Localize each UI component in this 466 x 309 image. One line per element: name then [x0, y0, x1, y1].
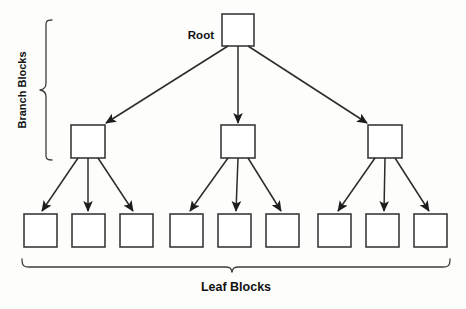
edge-root-to-branch-3: [248, 46, 367, 123]
diagram-canvas: Root: [0, 0, 466, 309]
leaf-node-4[interactable]: [170, 214, 203, 247]
root-level-group: Root: [188, 14, 254, 46]
branch-node-1[interactable]: [71, 125, 105, 158]
edge-branch3-to-leaf7: [338, 158, 375, 211]
edge-root-to-branch-1: [106, 46, 228, 123]
edge-branch3-to-leaf8: [384, 158, 385, 211]
leaf-node-3[interactable]: [120, 214, 153, 247]
edge-branch3-to-leaf9: [395, 158, 429, 211]
leaf-node-6[interactable]: [266, 214, 299, 247]
leaf-node-5[interactable]: [218, 214, 251, 247]
btree-diagram: Root: [0, 0, 466, 309]
leaf-node-7[interactable]: [318, 214, 351, 247]
branch-level-group: [71, 125, 402, 158]
branch-to-leaf-edges: [42, 158, 429, 211]
root-to-branch-edges: [106, 46, 367, 123]
leaf-level-group: [24, 214, 447, 247]
branch-node-3[interactable]: [368, 125, 402, 158]
edge-branch2-to-leaf5: [236, 158, 238, 211]
edge-branch1-to-leaf3: [98, 158, 133, 211]
leaf-node-8[interactable]: [366, 214, 399, 247]
leaf-node-2[interactable]: [72, 214, 105, 247]
branch-blocks-brace-group: Branch Blocks: [16, 20, 52, 160]
root-label: Root: [188, 29, 214, 41]
edge-branch2-to-leaf6: [248, 158, 281, 211]
leaf-node-9[interactable]: [414, 214, 447, 247]
edge-branch1-to-leaf1: [42, 158, 78, 211]
leaf-node-1[interactable]: [24, 214, 57, 247]
leaf-blocks-brace: [22, 259, 450, 272]
edge-branch2-to-leaf4: [190, 158, 228, 211]
root-node[interactable]: [222, 14, 254, 46]
leaf-blocks-brace-group: Leaf Blocks: [22, 259, 450, 294]
branch-blocks-label: Branch Blocks: [16, 51, 28, 128]
leaf-blocks-label: Leaf Blocks: [201, 280, 271, 294]
branch-blocks-brace: [40, 20, 52, 160]
branch-node-2[interactable]: [221, 125, 255, 158]
